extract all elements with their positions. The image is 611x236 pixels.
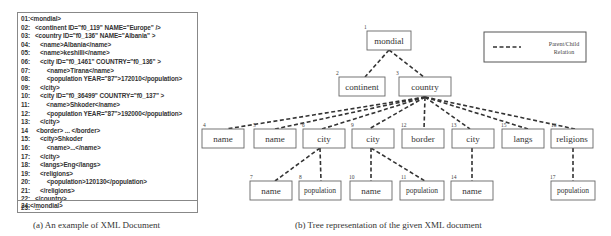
node-label: name [265, 134, 285, 144]
edge-1-2 [365, 50, 389, 77]
legend: Parent/Child Relation [484, 32, 586, 62]
node-number: 8 [299, 174, 302, 180]
node-label: population [406, 186, 438, 195]
node-number: 6 [302, 122, 305, 128]
node-number: 15 [501, 122, 507, 128]
node-label: border [411, 134, 435, 144]
node-number: 14 [451, 174, 457, 180]
caption-b: (b) Tree representation of the given XML… [295, 220, 482, 230]
tree-diagram: mondial continent country name name city… [0, 0, 611, 236]
edge-3-12 [424, 97, 425, 129]
edge-6-8 [320, 148, 321, 181]
node-label: name [462, 186, 482, 196]
node-number: 5 [253, 122, 256, 128]
node-number: 10 [349, 174, 355, 180]
node-label: city [366, 134, 380, 144]
node-label: country [411, 82, 439, 92]
node-number: 4 [203, 122, 206, 128]
node-label: population [304, 186, 336, 195]
node-number: 2 [336, 70, 339, 76]
node-number: 9 [351, 122, 354, 128]
node-label: name [361, 186, 381, 196]
node-number: 3 [396, 70, 399, 76]
node-number: 17 [550, 174, 556, 180]
node-number: 13 [451, 122, 457, 128]
node-label: city [466, 134, 480, 144]
legend-label-line1: Parent/Child [549, 41, 579, 47]
node-label: langs [514, 134, 533, 144]
legend-label-line2: Relation [554, 49, 574, 55]
node-number: 16 [551, 122, 557, 128]
node-label: mondial [374, 36, 404, 46]
edge-3-15 [425, 97, 528, 129]
node-number: 1 [364, 24, 367, 30]
node-number: 11 [401, 174, 407, 180]
node-label: continent [345, 82, 379, 92]
edge-1-3 [389, 50, 424, 77]
node-label: name [213, 134, 233, 144]
legend-box [484, 32, 586, 62]
edge-6-7 [275, 148, 320, 181]
node-label: population [557, 186, 589, 195]
tree-edges [226, 50, 575, 181]
edge-9-11 [371, 148, 425, 181]
node-label: religions [556, 134, 588, 144]
edge-3-4 [226, 97, 425, 129]
node-number: 7 [250, 174, 253, 180]
edge-3-6 [322, 97, 425, 129]
node-number: 12 [401, 122, 407, 128]
node-label: city [317, 134, 331, 144]
node-label: name [261, 186, 281, 196]
